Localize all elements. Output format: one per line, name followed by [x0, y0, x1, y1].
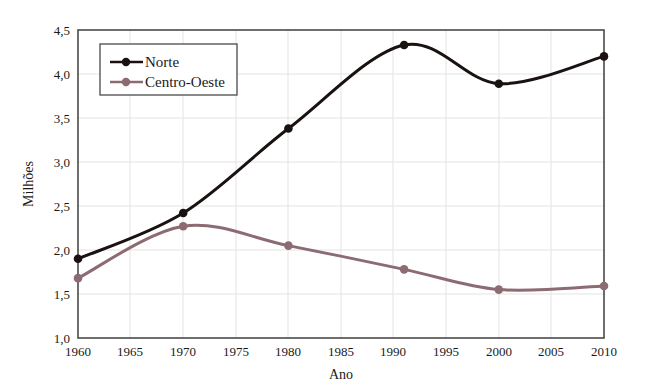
legend: Norte Centro-Oeste [100, 44, 237, 95]
legend-label-centro-oeste: Centro-Oeste [145, 74, 225, 90]
x-tick-label: 1960 [65, 344, 91, 359]
x-tick-label: 2000 [486, 344, 512, 359]
x-tick-label: 1990 [380, 344, 406, 359]
chart-background [0, 0, 649, 391]
data-point [600, 52, 609, 61]
x-tick-label: 1985 [328, 344, 354, 359]
y-tick-label: 4,0 [54, 67, 70, 82]
chart-figure: 4,5 4,0 3,5 3,0 2,5 2,0 1,5 1,0 1960 196… [0, 0, 649, 391]
y-tick-label: 2,0 [54, 243, 70, 258]
line-chart: 4,5 4,0 3,5 3,0 2,5 2,0 1,5 1,0 1960 196… [0, 0, 649, 391]
data-point [179, 222, 188, 231]
y-axis-title: Milhões [21, 161, 36, 207]
data-point [400, 265, 409, 274]
x-tick-label: 1980 [275, 344, 301, 359]
x-tick-label: 2005 [538, 344, 564, 359]
y-tick-label: 3,0 [54, 155, 70, 170]
data-point [495, 285, 504, 294]
legend-marker-centro-oeste [122, 78, 130, 86]
y-tick-label: 4,5 [54, 23, 70, 38]
x-tick-label: 1995 [433, 344, 459, 359]
legend-label-norte: Norte [145, 54, 179, 70]
x-tick-label: 1975 [223, 344, 249, 359]
x-tick-label: 1970 [170, 344, 196, 359]
y-tick-label: 3,5 [54, 111, 70, 126]
data-point [284, 241, 293, 250]
x-tick-label: 1965 [117, 344, 143, 359]
data-point [179, 209, 188, 218]
data-point [284, 124, 293, 133]
data-point [600, 282, 609, 291]
data-point [74, 254, 83, 263]
y-tick-label: 2,5 [54, 199, 70, 214]
legend-marker-norte [122, 58, 130, 66]
x-axis-title: Ano [329, 367, 353, 382]
y-tick-label: 1,5 [54, 287, 70, 302]
data-point [400, 41, 409, 50]
x-tick-label: 2010 [591, 344, 617, 359]
data-point [495, 79, 504, 88]
data-point [74, 274, 83, 283]
